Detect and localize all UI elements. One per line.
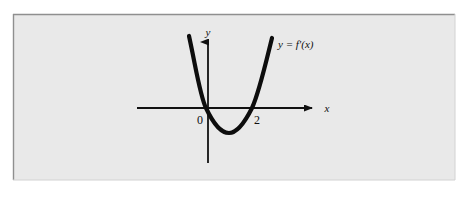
- y-axis-label: y: [205, 26, 211, 38]
- derivative-graph-figure: x y 0 2 y = f'(x): [0, 0, 466, 200]
- x-axis-label: x: [324, 102, 330, 114]
- tick-label-2: 2: [254, 113, 260, 127]
- figure-root: x y 0 2 y = f'(x): [0, 0, 466, 200]
- curve-label: y = f'(x): [277, 38, 314, 51]
- tick-label-0: 0: [197, 113, 203, 127]
- paper-panel: [13, 14, 455, 180]
